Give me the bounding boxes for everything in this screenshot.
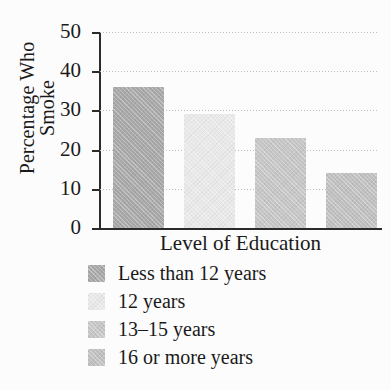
x-axis-line — [99, 228, 382, 230]
y-axis-title-line-2: Smoke — [37, 80, 57, 136]
bar-12-years — [184, 114, 235, 228]
y-axis-title-line-1: Percentage Who — [17, 42, 37, 175]
y-axis-title: Percentage Who Smoke — [14, 8, 60, 208]
y-tick-50: 50 — [92, 32, 100, 34]
y-tick-40: 40 — [92, 71, 100, 73]
plot-area: 50 40 30 20 10 0 — [99, 32, 379, 228]
y-tick-label-40: 40 — [60, 60, 81, 81]
legend-label-12-years: 12 years — [118, 291, 185, 311]
x-axis-title: Level of Education — [99, 231, 382, 256]
y-tick-30: 30 — [92, 110, 100, 112]
bar-13-15-years — [255, 138, 306, 228]
gridline-40 — [100, 71, 379, 72]
y-tick-20: 20 — [92, 150, 100, 152]
legend-label-less-than-12-years: Less than 12 years — [118, 263, 266, 283]
y-tick-label-30: 30 — [60, 99, 81, 120]
y-tick-label-50: 50 — [60, 21, 81, 42]
y-tick-10: 10 — [92, 189, 100, 191]
legend-item-16-or-more-years: 16 or more years — [88, 343, 378, 371]
legend-swatch-icon-16-or-more-years — [88, 349, 105, 366]
y-tick-0: 0 — [92, 228, 100, 230]
bar-16-or-more-years — [326, 173, 377, 228]
chart-figure: Percentage Who Smoke 50 40 30 20 10 0 — [0, 0, 391, 390]
legend-label-16-or-more-years: 16 or more years — [118, 347, 253, 367]
legend-swatch-icon-less-than-12-years — [88, 265, 105, 282]
y-tick-label-20: 20 — [60, 139, 81, 160]
y-tick-label-10: 10 — [60, 178, 81, 199]
legend: Less than 12 years 12 years 13–15 years … — [88, 259, 378, 371]
legend-item-12-years: 12 years — [88, 287, 378, 315]
legend-swatch-icon-13-15-years — [88, 321, 105, 338]
y-axis-line — [99, 32, 101, 229]
gridline-50 — [100, 32, 379, 33]
legend-swatch-icon-12-years — [88, 293, 105, 310]
legend-item-less-than-12-years: Less than 12 years — [88, 259, 378, 287]
legend-item-13-15-years: 13–15 years — [88, 315, 378, 343]
bar-less-than-12-years — [113, 87, 164, 228]
y-tick-label-0: 0 — [71, 217, 82, 238]
legend-label-13-15-years: 13–15 years — [118, 319, 215, 339]
